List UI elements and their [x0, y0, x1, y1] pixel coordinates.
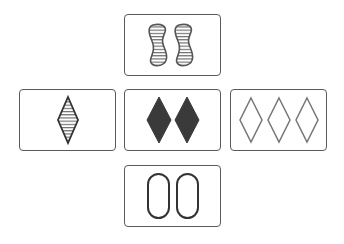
card-right[interactable]: 3 open diamonds — [230, 89, 327, 151]
card-top[interactable]: 2 striped squiggles — [124, 14, 221, 76]
diamond-icon — [56, 95, 80, 145]
card-bottom[interactable]: 2 open ovals — [124, 165, 221, 227]
diamond-pair-icon — [145, 95, 201, 145]
diamond-triple-icon — [237, 95, 321, 145]
card-center[interactable]: 2 solid diamonds — [124, 89, 221, 151]
card-left[interactable]: 1 striped diamond — [19, 89, 116, 151]
oval-pair-icon — [145, 171, 201, 221]
squiggle-pair-icon — [143, 20, 203, 70]
